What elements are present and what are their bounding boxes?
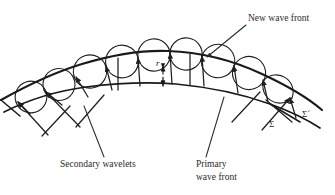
construction-ray — [46, 92, 80, 127]
new-wave-front-leader — [207, 25, 246, 57]
wavelet-radius-ray — [290, 98, 296, 118]
secondary-wavelet-arc — [138, 53, 170, 71]
primary-wave-front-leader — [206, 97, 224, 157]
construction-ray — [42, 106, 70, 136]
new-wave-front-label: New wave front — [248, 13, 310, 23]
sigma-label: Σ — [269, 119, 274, 129]
wavelet-radius-ray — [234, 66, 238, 93]
radius-marker: r — [156, 58, 163, 86]
figure-canvas: r New wave front Secondary wavelets Prim… — [0, 0, 335, 195]
new-wave-front-arc — [1, 51, 322, 110]
secondary-wavelet-arc — [138, 39, 170, 57]
secondary-wavelet-arc — [16, 92, 47, 113]
primary-wave-front-label-line1: Primary — [196, 159, 227, 169]
wavelet-radius-ray — [202, 56, 204, 86]
wavelet-radius-ray — [106, 66, 112, 90]
secondary-wavelet-arc — [201, 56, 234, 78]
primary-wave-front-label-line2: wave front — [196, 172, 237, 182]
secondary-wavelets-label: Secondary wavelets — [60, 159, 136, 169]
huygens-principle-diagram: r New wave front Secondary wavelets Prim… — [0, 0, 335, 195]
wavelet-radius-ray — [170, 53, 172, 84]
secondary-wavelets-leader — [84, 106, 104, 157]
radius-label: r — [156, 58, 160, 68]
new-wave-front-left-tail — [1, 100, 20, 116]
secondary-wavelet-arc — [106, 58, 138, 78]
sigma-prime-label: Σ´ — [302, 109, 310, 119]
